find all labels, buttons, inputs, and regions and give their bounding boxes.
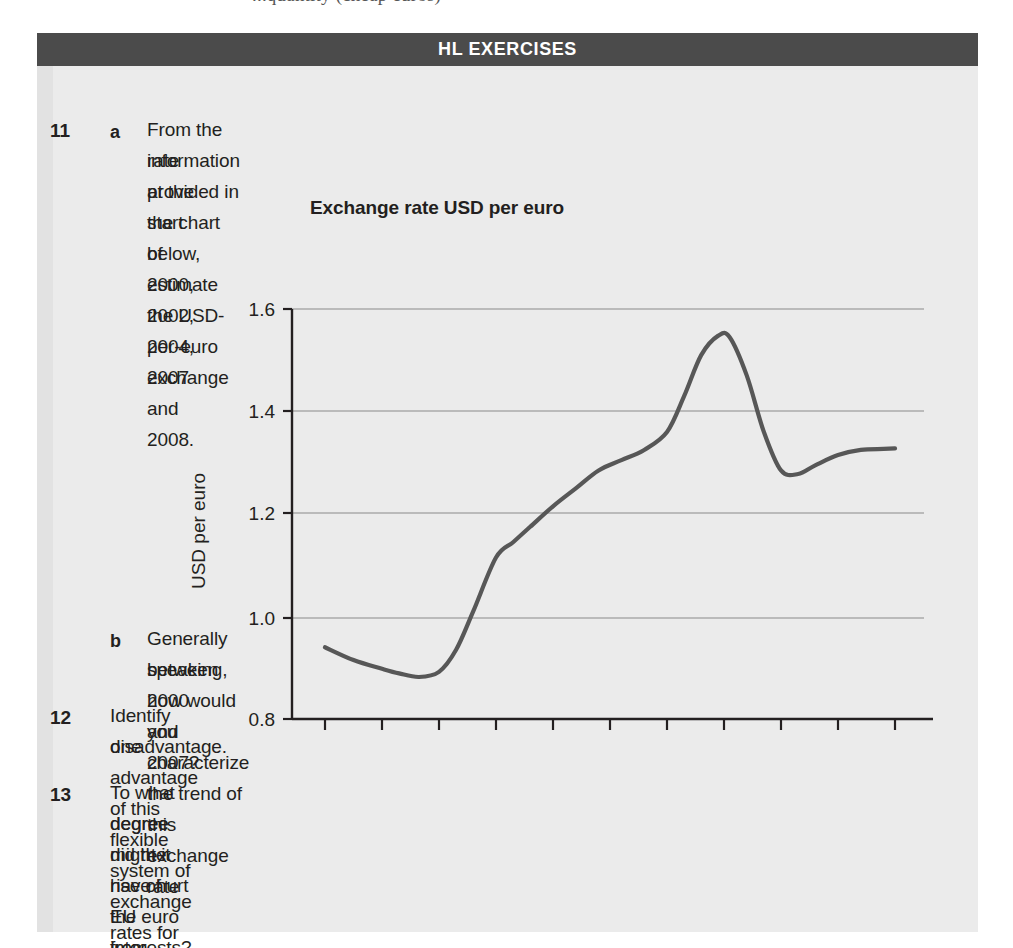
exercise-part-letter-11b: b [110, 628, 121, 654]
y-tick-marks [283, 309, 292, 719]
chart-canvas: 1.6 1.4 1.2 1.0 0.8 USD per euro [157, 231, 957, 731]
y-axis-title: USD per euro [188, 473, 209, 589]
y-tick-label-1.2: 1.2 [249, 503, 275, 524]
exercise-header-bar: HL EXERCISES [37, 33, 978, 66]
x-tick-marks [325, 719, 895, 730]
exchange-rate-chart: Exchange rate USD per euro [37, 66, 978, 586]
page-top-bleed: ...quantity (cheap euros) [0, 0, 1013, 22]
exercise-number-13: 13 [50, 782, 71, 808]
exercise-body: 11 a From the information provided in th… [37, 66, 978, 932]
bleed-text: ...quantity (cheap euros) [252, 0, 441, 6]
y-tick-label-0.8: 0.8 [249, 709, 275, 730]
exercise-text-13-line2: degree might it have hurt EU interests? [110, 808, 191, 948]
exercise-header-title: HL EXERCISES [438, 39, 577, 60]
chart-title: Exchange rate USD per euro [37, 197, 837, 219]
exercise-number-12: 12 [50, 705, 71, 731]
exercise-box: HL EXERCISES 11 a From the information p… [37, 33, 978, 932]
exchange-rate-line [325, 333, 895, 677]
y-tick-label-1.4: 1.4 [249, 401, 276, 422]
y-tick-label-1.0: 1.0 [249, 608, 275, 629]
exercise-text-12-line2: disadvantage. [110, 731, 227, 762]
y-tick-label-1.6: 1.6 [249, 299, 275, 320]
